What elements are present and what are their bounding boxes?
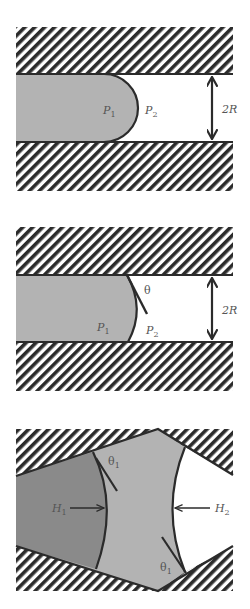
label-2r: 2R — [221, 103, 237, 116]
fluid-region — [16, 275, 137, 342]
bottom-wall-hatch — [16, 343, 233, 391]
panel-2-contact-angle: θ P1 P2 2R — [16, 227, 237, 391]
panel-3-three-phase-pore: θ1 θ1 H1 H2 — [16, 429, 233, 591]
top-wall-hatch — [16, 27, 233, 73]
fluid-plug — [16, 74, 138, 142]
panel-1-capillary-plug: P1 P2 2R — [16, 27, 237, 191]
top-wall-hatch — [16, 227, 233, 274]
label-2r: 2R — [221, 304, 237, 317]
bottom-wall-hatch — [16, 143, 233, 191]
figure-canvas: P1 P2 2R θ P1 P2 2R — [0, 0, 250, 609]
label-theta: θ — [144, 284, 151, 297]
